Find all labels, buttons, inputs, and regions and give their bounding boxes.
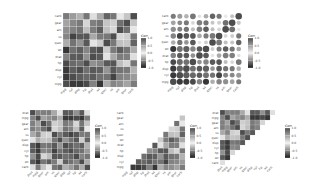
corr-circle [184, 33, 190, 39]
panel-full-circle: carbgearamvsqsecwtdrathpdispcylmpgmpgcyl… [162, 13, 261, 93]
corr-cell [169, 137, 175, 143]
corr-cell [110, 20, 117, 27]
corr-circle [223, 53, 229, 59]
corr-cell [79, 165, 85, 171]
corr-cell [147, 154, 153, 160]
corr-cell [30, 165, 36, 171]
corr-cell [163, 148, 169, 154]
corr-circle [236, 33, 241, 38]
corr-cell [225, 145, 230, 150]
corr-cell [90, 13, 97, 20]
legend-tick-label: 0.0 [292, 141, 297, 145]
corr-cell [63, 126, 69, 132]
corr-circle [203, 46, 210, 53]
y-tick-label: carb [162, 14, 169, 18]
corr-cell [52, 165, 58, 171]
corr-cell [79, 126, 85, 132]
corr-cell [97, 47, 104, 54]
corr-cell [63, 143, 69, 149]
corr-cell [174, 143, 180, 149]
corr-cell [63, 60, 70, 67]
corr-cell [76, 74, 83, 81]
y-tick-label: vs [215, 131, 219, 135]
corr-cell [103, 67, 110, 74]
corr-circle [236, 73, 241, 78]
corr-cell [76, 20, 83, 27]
corr-cell [124, 33, 131, 40]
y-tick-label: drat [162, 54, 169, 58]
corr-cell [68, 148, 74, 154]
corr-cell [85, 148, 91, 154]
corr-cell [240, 120, 245, 125]
corr-cell [30, 121, 36, 127]
corr-cell [260, 120, 265, 125]
corr-cell [240, 125, 245, 130]
corr-circle [190, 66, 196, 72]
corr-cell [220, 140, 225, 145]
corr-cell [90, 33, 97, 40]
corr-circle [216, 66, 222, 72]
corr-cell [103, 80, 110, 87]
corr-cell [103, 13, 110, 20]
corr-cell [90, 47, 97, 54]
corr-cell [97, 20, 104, 27]
corr-cell [30, 115, 36, 121]
legend-tick-label: -0.5 [102, 149, 108, 153]
corr-cell [68, 165, 74, 171]
legend-tick-label: 0.0 [102, 141, 107, 145]
legend-tick-label: -1.0 [197, 156, 203, 160]
corr-cell [103, 47, 110, 54]
corr-circle [203, 20, 208, 25]
corr-circle [177, 66, 183, 72]
corr-cell [79, 110, 85, 116]
corr-cell [74, 121, 80, 127]
y-tick-label: disp [162, 67, 168, 71]
corr-cell [85, 165, 91, 171]
corr-cell [225, 140, 230, 145]
y-tick-label: am [164, 27, 169, 31]
y-tick-label: cyl [24, 149, 28, 153]
corr-circle [236, 47, 241, 52]
corr-cell [46, 137, 52, 143]
corr-cell [70, 74, 77, 81]
legend-tick-label: 1.0 [197, 126, 202, 130]
y-tick-label: drat [212, 111, 219, 115]
corr-circle [183, 46, 189, 52]
corr-cell [235, 140, 240, 145]
corr-cell [130, 33, 137, 40]
corr-cell [52, 121, 58, 127]
corr-circle [190, 40, 196, 46]
corr-circle [203, 59, 208, 64]
corr-circle [236, 79, 241, 84]
y-tick-label: am [214, 126, 219, 130]
corr-cell [103, 53, 110, 60]
corr-cell [97, 13, 104, 20]
corr-circle [198, 41, 202, 45]
y-tick-label: disp [55, 68, 61, 72]
corr-cell [117, 47, 124, 54]
corr-cell [180, 165, 186, 171]
corr-cell [255, 115, 260, 120]
corr-cell [85, 137, 91, 143]
corr-cell [220, 125, 225, 130]
x-tick-label: disp [180, 85, 187, 92]
y-tick-label: carb [55, 14, 62, 18]
corr-cell [70, 20, 77, 27]
corr-cell [70, 53, 77, 60]
corr-cell [225, 115, 230, 120]
y-tick-label: qsec [55, 41, 62, 45]
corr-circle [197, 66, 203, 72]
corr-cell [225, 110, 230, 115]
corr-cell [46, 126, 52, 132]
y-tick-label: am [119, 122, 124, 126]
corr-cell [245, 115, 250, 120]
corr-cell [240, 140, 245, 145]
corr-cell [158, 159, 164, 165]
corr-cell [130, 67, 137, 74]
corr-circle [196, 52, 203, 59]
corr-cell [270, 110, 275, 115]
corr-cell [70, 33, 77, 40]
corr-cell [63, 53, 70, 60]
corr-cell [117, 53, 124, 60]
corr-cell [225, 135, 230, 140]
